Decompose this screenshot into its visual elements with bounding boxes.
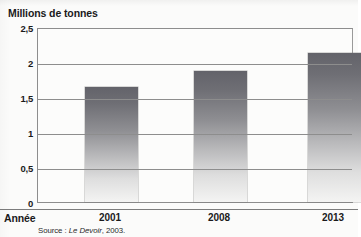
- source-suffix: , 2003.: [102, 226, 126, 235]
- y-tick-label: 2,5: [3, 23, 33, 34]
- y-axis-title: Millions de tonnes: [8, 7, 98, 19]
- bar: [194, 71, 247, 202]
- gridline: [38, 134, 352, 135]
- gridline: [38, 99, 352, 100]
- x-tick-label: 2013: [322, 212, 344, 223]
- y-tick-label: 2: [3, 58, 33, 69]
- source-prefix: Source :: [38, 226, 67, 235]
- plot-area: [37, 28, 353, 203]
- y-tick-label: 0: [3, 198, 33, 209]
- bar: [308, 53, 361, 202]
- source-publication: Le Devoir: [69, 226, 102, 235]
- y-tick-label: 0,5: [3, 163, 33, 174]
- bar: [85, 87, 138, 203]
- x-tick-label: 2008: [208, 212, 230, 223]
- x-axis-title: Année: [4, 212, 36, 224]
- y-tick-label: 1: [3, 128, 33, 139]
- x-axis-line: [0, 209, 358, 210]
- y-axis-tick-labels: 00,511,522,5: [0, 28, 33, 203]
- x-tick-label: 2001: [99, 212, 121, 223]
- gridline: [38, 169, 352, 170]
- source-note: Source : Le Devoir, 2003.: [38, 226, 125, 235]
- gridline: [38, 64, 352, 65]
- y-tick-label: 1,5: [3, 93, 33, 104]
